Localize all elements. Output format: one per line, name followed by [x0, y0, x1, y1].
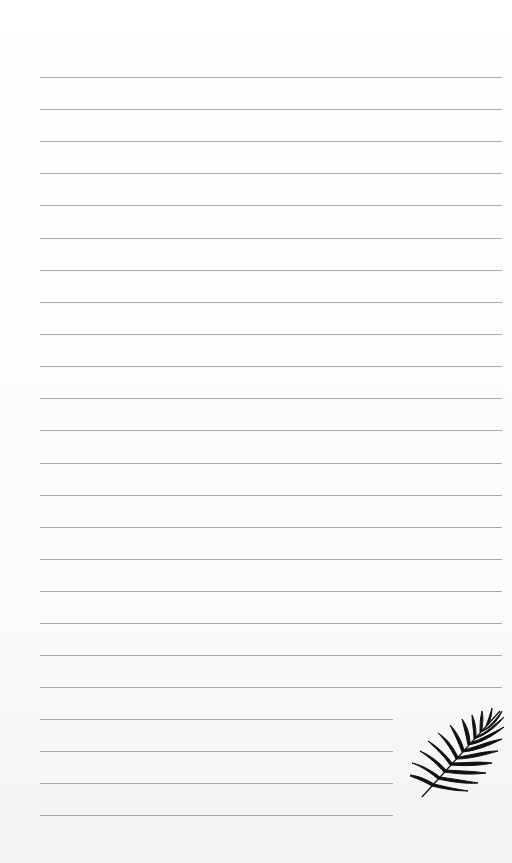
ruled-line [40, 783, 393, 784]
ruled-line [40, 815, 393, 816]
ruled-line [40, 527, 502, 528]
ruled-line [40, 173, 502, 174]
ruled-line [40, 430, 502, 431]
ruled-line [40, 141, 502, 142]
ruled-line [40, 238, 502, 239]
ruled-line [40, 270, 502, 271]
ruled-line [40, 398, 502, 399]
ruled-line [40, 559, 502, 560]
ruled-line [40, 495, 502, 496]
ruled-line [40, 623, 502, 624]
ruled-line [40, 591, 502, 592]
ruled-line [40, 751, 393, 752]
ruled-line [40, 463, 502, 464]
ruled-line [40, 719, 393, 720]
ruled-line [40, 109, 502, 110]
ruled-line [40, 366, 502, 367]
ruled-line [40, 334, 502, 335]
palm-leaf-icon [410, 705, 510, 805]
ruled-line [40, 655, 502, 656]
ruled-line [40, 687, 502, 688]
ruled-line [40, 77, 502, 78]
ruled-line [40, 302, 502, 303]
ruled-line [40, 205, 502, 206]
